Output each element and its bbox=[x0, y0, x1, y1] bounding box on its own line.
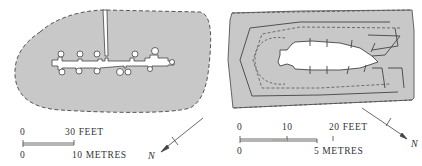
left-north-label: N bbox=[148, 150, 155, 161]
right-scale-metres-end: 5 METRES bbox=[314, 146, 363, 156]
right-north-label: N bbox=[411, 138, 418, 149]
right-scale-bar bbox=[240, 136, 333, 143]
left-scale-metres-end: 10 METRES bbox=[72, 150, 127, 160]
left-chamber bbox=[132, 51, 138, 57]
left-chamber bbox=[59, 69, 65, 75]
site-plans bbox=[0, 0, 422, 166]
right-mound-plan bbox=[228, 10, 414, 143]
left-scale-bar bbox=[23, 140, 74, 147]
left-chamber bbox=[58, 51, 64, 57]
left-chamber bbox=[117, 69, 124, 76]
left-chamber bbox=[152, 48, 159, 55]
right-scale-metres-start: 0 bbox=[237, 146, 242, 156]
left-chamber bbox=[125, 69, 131, 75]
left-north-arrow-icon bbox=[161, 118, 203, 152]
left-chamber bbox=[94, 51, 100, 57]
left-scale-feet-start: 0 bbox=[20, 127, 25, 137]
right-scale-feet-start: 0 bbox=[237, 122, 242, 132]
right-scale-feet-mid: 10 bbox=[282, 122, 293, 132]
left-chamber bbox=[148, 67, 153, 72]
left-scale-metres-start: 0 bbox=[20, 150, 25, 160]
left-chamber bbox=[77, 51, 83, 57]
left-chamber bbox=[76, 68, 82, 74]
left-scale-feet-end: 30 FEET bbox=[65, 127, 104, 137]
right-north-arrow-icon bbox=[362, 108, 407, 139]
left-chamber bbox=[170, 60, 175, 65]
left-mound-plan bbox=[15, 10, 211, 152]
left-chamber bbox=[94, 68, 100, 74]
right-scale-feet-end: 20 FEET bbox=[329, 122, 368, 132]
